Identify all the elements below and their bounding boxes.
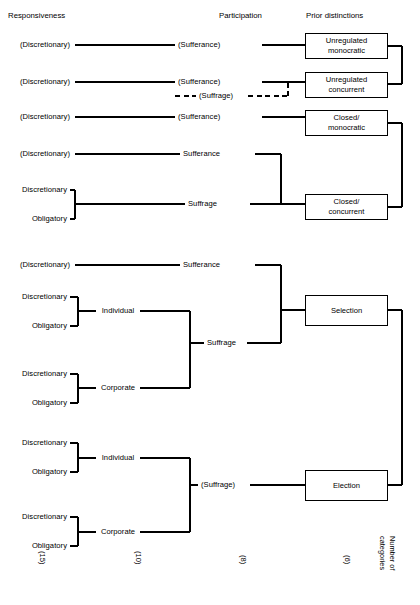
intermediate-label: Individual <box>102 307 135 315</box>
responsiveness-label: Obligatory <box>32 322 67 330</box>
axis-caption-line2: categories <box>379 536 386 570</box>
prior-distinction-box: Closed/ concurrent <box>305 194 388 220</box>
responsiveness-label: (Discretionary) <box>20 150 70 158</box>
column-header-participation: Participation <box>219 12 262 20</box>
responsiveness-label: (Discretionary) <box>20 41 70 49</box>
responsiveness-label: Discretionary <box>22 513 67 521</box>
responsiveness-label: (Discretionary) <box>20 261 70 269</box>
participation-label: Suffrage <box>188 200 217 208</box>
responsiveness-label: Obligatory <box>32 542 67 550</box>
prior-distinction-box: Unregulated concurrent <box>305 72 388 98</box>
box-line: Selection <box>331 306 362 316</box>
category-count: (15) <box>38 551 46 565</box>
responsiveness-label: Discretionary <box>22 439 67 447</box>
responsiveness-label: Obligatory <box>32 468 67 476</box>
responsiveness-label: Discretionary <box>22 370 67 378</box>
category-count: (6) <box>343 555 351 564</box>
box-line: concurrent <box>329 85 365 94</box>
participation-label: Suffrage <box>207 339 236 347</box>
participation-label: Sufferance <box>183 261 220 269</box>
participation-label: (Sufferance) <box>178 78 220 86</box>
participation-label-dashed: (Suffrage) <box>199 92 233 100</box>
participation-label: (Sufferance) <box>178 113 220 121</box>
responsiveness-label: (Discretionary) <box>20 113 70 121</box>
prior-distinction-box: Closed/ monocratic <box>305 110 388 136</box>
box-line: Election <box>333 481 360 491</box>
participation-label: Sufferance <box>183 150 220 158</box>
axis-caption-line1: Number of <box>389 536 396 571</box>
prior-distinction-box: Unregulated monocratic <box>305 33 388 59</box>
box-line: concurrent <box>329 207 365 216</box>
column-header-responsiveness: Responsiveness <box>8 12 65 20</box>
intermediate-label: Corporate <box>101 384 135 392</box>
category-count: (8) <box>239 555 247 564</box>
responsiveness-label: Discretionary <box>22 186 67 194</box>
column-header-prior-distinctions: Prior distinctions <box>306 12 363 20</box>
participation-label: (Sufferance) <box>178 41 220 49</box>
box-line: monocratic <box>328 123 365 132</box>
responsiveness-label: Discretionary <box>22 293 67 301</box>
tree-diagram: Responsiveness Participation Prior disti… <box>0 0 420 605</box>
prior-distinction-box: Selection <box>305 295 388 326</box>
box-line: Closed/ <box>334 197 360 206</box>
box-line: monocratic <box>328 46 365 55</box>
responsiveness-label: Obligatory <box>32 399 67 407</box>
intermediate-label: Corporate <box>101 528 135 536</box>
responsiveness-label: Obligatory <box>32 215 67 223</box>
box-line: Closed/ <box>334 113 360 122</box>
responsiveness-label: (Discretionary) <box>20 78 70 86</box>
participation-label: (Suffrage) <box>201 481 235 489</box>
box-line: Unregulated <box>326 36 367 45</box>
category-count: (10) <box>134 551 142 565</box>
prior-distinction-box: Election <box>305 470 388 501</box>
box-line: Unregulated <box>326 75 367 84</box>
intermediate-label: Individual <box>102 454 135 462</box>
